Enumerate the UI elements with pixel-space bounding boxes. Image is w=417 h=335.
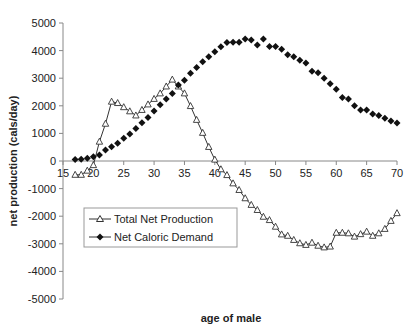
series-net-caloric-demand: [72, 36, 401, 164]
diamond-marker: [357, 106, 364, 113]
diamond-marker: [157, 101, 164, 108]
diamond-marker: [223, 39, 230, 46]
diamond-marker: [120, 135, 127, 142]
y-tick-label: 1000: [32, 127, 56, 139]
triangle-marker: [315, 242, 321, 248]
triangle-marker: [363, 228, 369, 234]
x-tick-label: 70: [391, 167, 403, 179]
diamond-marker: [351, 102, 358, 109]
triangle-marker: [309, 239, 315, 245]
diamond-marker: [169, 90, 176, 97]
diamond-marker: [230, 39, 237, 46]
x-axis-title: age of male: [201, 312, 262, 324]
diamond-marker: [363, 106, 370, 113]
legend-label: Net Caloric Demand: [114, 231, 213, 243]
diamond-marker: [145, 114, 152, 121]
diamond-marker: [236, 39, 243, 46]
diamond-marker: [78, 156, 85, 163]
triangle-marker: [376, 230, 382, 236]
diamond-marker: [296, 57, 303, 64]
triangle-marker: [394, 210, 400, 216]
x-tick-label: 35: [178, 167, 190, 179]
diamond-marker: [272, 43, 279, 50]
diamond-marker: [345, 95, 352, 102]
diamond-marker: [381, 115, 388, 122]
diamond-marker: [126, 130, 133, 137]
diamond-marker: [205, 53, 212, 60]
triangle-marker: [121, 104, 127, 110]
diamond-marker: [254, 42, 261, 49]
diamond-marker: [266, 43, 273, 50]
y-axis-ticks: 500040003000200010000-1000-2000-3000-400…: [28, 17, 63, 305]
x-tick-label: 55: [300, 167, 312, 179]
diamond-marker: [315, 69, 322, 76]
diamond-marker: [163, 95, 170, 102]
diamond-marker: [321, 75, 328, 82]
triangle-marker: [108, 98, 114, 104]
y-tick-label: 5000: [32, 17, 56, 29]
diamond-marker: [284, 51, 291, 58]
y-tick-label: -2000: [28, 210, 56, 222]
diamond-marker: [211, 48, 218, 55]
triangle-marker: [254, 206, 260, 212]
y-tick-label: -5000: [28, 293, 56, 305]
diamond-marker: [369, 111, 376, 118]
diamond-marker: [302, 60, 309, 67]
triangle-marker: [327, 243, 333, 249]
x-tick-label: 45: [239, 167, 251, 179]
triangle-marker: [206, 143, 212, 149]
diamond-marker: [72, 156, 79, 163]
triangle-marker: [193, 116, 199, 122]
x-tick-label: 60: [330, 167, 342, 179]
diamond-marker: [108, 143, 115, 150]
legend: Total Net Production Net Caloric Demand: [84, 208, 237, 247]
diamond-marker: [217, 43, 224, 50]
diamond-marker: [102, 146, 109, 153]
axes: [63, 23, 397, 299]
y-tick-label: -4000: [28, 265, 56, 277]
diamond-marker: [394, 119, 401, 126]
diamond-marker: [375, 112, 382, 119]
diamond-marker: [138, 119, 145, 126]
x-tick-label: 65: [361, 167, 373, 179]
triangle-marker: [291, 236, 297, 242]
x-axis-ticks: 152025303540455055606570: [57, 161, 403, 179]
diamond-marker: [242, 36, 249, 43]
triangle-marker: [199, 129, 205, 135]
triangle-marker: [102, 120, 108, 126]
diamond-marker: [151, 108, 158, 115]
y-tick-label: 0: [50, 155, 56, 167]
diamond-marker: [260, 36, 267, 43]
y-axis-title: net production (cals/day): [7, 95, 19, 226]
triangle-marker: [127, 108, 133, 114]
y-tick-label: 3000: [32, 72, 56, 84]
diamond-marker: [187, 70, 194, 77]
diamond-marker: [327, 80, 334, 87]
triangle-marker: [187, 103, 193, 109]
diamond-marker: [132, 125, 139, 132]
diamond-marker: [114, 140, 121, 147]
x-tick-label: 15: [57, 167, 69, 179]
diamond-marker: [181, 77, 188, 84]
diamond-marker: [278, 46, 285, 53]
diamond-marker: [248, 37, 255, 44]
diamond-marker: [387, 117, 394, 124]
y-tick-label: -1000: [28, 183, 56, 195]
x-tick-label: 25: [118, 167, 130, 179]
triangle-marker: [212, 156, 218, 162]
diamond-marker: [333, 86, 340, 93]
y-tick-label: 4000: [32, 45, 56, 57]
triangle-marker: [96, 138, 102, 144]
x-tick-label: 50: [269, 167, 281, 179]
legend-label: Total Net Production: [114, 213, 213, 225]
diamond-marker: [193, 64, 200, 71]
x-tick-label: 30: [148, 167, 160, 179]
y-tick-label: 2000: [32, 100, 56, 112]
line-chart: 500040003000200010000-1000-2000-3000-400…: [0, 0, 417, 335]
y-tick-label: -3000: [28, 238, 56, 250]
triangle-marker: [90, 162, 96, 168]
diamond-marker: [199, 58, 206, 65]
diamond-marker: [308, 68, 315, 75]
diamond-marker: [339, 94, 346, 101]
diamond-marker: [290, 53, 297, 60]
